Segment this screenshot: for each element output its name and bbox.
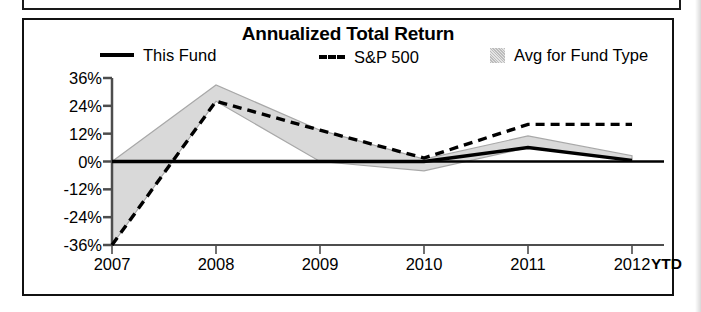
- x-axis-tick-label: 2007: [94, 256, 131, 273]
- x-axis-tick-label: 2010: [406, 256, 443, 273]
- scan-artifact-top-box: [22, 0, 681, 10]
- x-axis-tick-label: 2009: [302, 256, 339, 273]
- x-axis-tick-label: 2012: [614, 256, 651, 273]
- x-axis-tick-label: 2008: [198, 256, 235, 273]
- x-axis-tick-label: 2011: [510, 256, 545, 273]
- x-axis-ytd-suffix: YTD: [651, 256, 682, 272]
- x-axis-labels: YTD 200720082009201020112012: [24, 20, 676, 298]
- scan-artifact-page-edge: [695, 0, 701, 312]
- annualized-total-return-chart-panel: Annualized Total Return This Fund S&P 50…: [22, 18, 674, 296]
